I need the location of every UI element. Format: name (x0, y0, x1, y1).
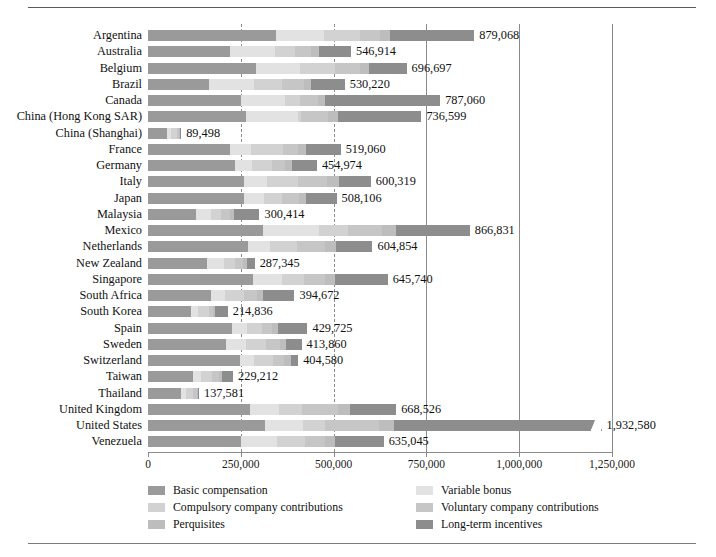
table-row (148, 46, 351, 57)
bar-value-label: 645,740 (393, 274, 433, 285)
bar-segment-varbonus (263, 225, 319, 236)
category-label: Spain (114, 322, 142, 335)
bar-segment-compul (247, 323, 262, 334)
bar-segment-perq (380, 30, 390, 41)
bar-segment-perq (318, 95, 325, 106)
bar-segment-volunt (282, 193, 299, 204)
bar-segment-volunt (235, 258, 244, 269)
bar-segment-perq (285, 160, 292, 171)
bar-segment-varbonus (235, 160, 252, 171)
bar-value-label: 394,672 (300, 290, 340, 301)
category-label: Brazil (112, 78, 142, 91)
bar-segment-lti (335, 436, 384, 447)
bar-segment-compul (277, 436, 305, 447)
table-row (148, 128, 181, 139)
legend-label: Variable bonus (441, 483, 511, 498)
table-row (148, 225, 470, 236)
table-row (148, 274, 388, 285)
bar-segment-volunt (348, 225, 381, 236)
bar-value-label: 635,045 (389, 436, 429, 447)
bar-value-label: 137,581 (204, 388, 244, 399)
legend-swatch-icon (148, 520, 165, 529)
plot-area: 0250,000500,000750,0001,000,0001,250,000… (148, 24, 612, 452)
bar-segment-varbonus (232, 323, 248, 334)
bar-segment-volunt (266, 339, 280, 350)
bar-segment-varbonus (246, 111, 298, 122)
bar-segment-basic (148, 274, 253, 285)
bar-value-label: 879,068 (479, 30, 519, 41)
category-label: Japan (114, 192, 142, 205)
bar-segment-varbonus (226, 339, 246, 350)
bar-segment-compul (254, 79, 282, 90)
bar-segment-volunt (302, 404, 338, 415)
bar-segment-basic (148, 111, 246, 122)
bar-segment-perq (382, 225, 396, 236)
bar-value-label: 736,599 (426, 111, 466, 122)
x-axis-baseline (148, 452, 612, 453)
bar-segment-compul (264, 193, 282, 204)
bar-segment-volunt (282, 79, 304, 90)
bar-segment-basic (148, 225, 263, 236)
bar-segment-lti (306, 144, 341, 155)
x-tick-0 (148, 452, 149, 457)
bar-segment-volunt (305, 436, 325, 447)
legend-item: Voluntary company contributions (416, 499, 599, 516)
table-row (148, 30, 474, 41)
table-row (148, 111, 421, 122)
bar-segment-basic (148, 95, 241, 106)
bar-segment-compul (254, 355, 273, 366)
bar-segment-basic (148, 339, 226, 350)
bar-segment-varbonus (230, 46, 275, 57)
bar-value-label: 508,106 (342, 193, 382, 204)
bar-segment-volunt (295, 46, 312, 57)
category-label: Taiwan (106, 370, 142, 383)
bar-value-label: 1,932,580 (607, 420, 656, 431)
bar-segment-lti (292, 160, 317, 171)
x-tick-750000 (426, 452, 427, 457)
bar-value-label: 668,526 (401, 404, 441, 415)
bar-segment-lti (338, 111, 422, 122)
bar-segment-basic (148, 30, 276, 41)
bar-segment-compul (252, 160, 272, 171)
table-row (148, 241, 372, 252)
category-label: China (Hong Kong SAR) (17, 110, 142, 123)
bar-segment-perq (360, 63, 370, 74)
bar-segment-basic (148, 306, 191, 317)
bar-segment-volunt (298, 176, 327, 187)
category-label: Switzerland (83, 354, 142, 367)
bar-segment-volunt (272, 160, 285, 171)
legend-swatch-icon (416, 503, 433, 512)
bar-segment-varbonus (191, 306, 198, 317)
x-tick-250000 (241, 452, 242, 457)
bar-segment-volunt (283, 144, 299, 155)
legend-label: Basic compensation (173, 483, 268, 498)
bar-segment-lti (311, 79, 344, 90)
legend-item: Long-term incentives (416, 516, 599, 533)
category-label: United States (76, 419, 142, 432)
bar-value-label: 454,974 (322, 160, 362, 171)
bar-segment-basic (148, 176, 244, 187)
table-row (148, 388, 199, 399)
legend-item: Compulsory company contributions (148, 499, 343, 516)
category-label: Venezuela (91, 435, 142, 448)
bar-segment-compul (224, 258, 234, 269)
bar-segment-lti (222, 371, 233, 382)
bar-value-label: 429,725 (313, 323, 353, 334)
bar-segment-lti (215, 306, 228, 317)
bar-segment-varbonus (193, 371, 202, 382)
legend-swatch-icon (416, 520, 433, 529)
bar-segment-perq (299, 193, 306, 204)
bar-segment-perq (284, 355, 291, 366)
bar-segment-varbonus (196, 209, 211, 220)
bar-segment-compul (275, 46, 295, 57)
bar-segment-compul (246, 339, 265, 350)
bar-segment-varbonus (276, 30, 324, 41)
bar-segment-perq (311, 46, 319, 57)
bar-segment-compul (225, 290, 244, 301)
bar-value-label: 89,498 (186, 128, 220, 139)
table-row (148, 63, 407, 74)
bar-segment-lti (234, 209, 259, 220)
bar-segment-compul (279, 404, 302, 415)
x-tick-label: 1,000,000 (496, 458, 542, 470)
bar-segment-perq (325, 274, 335, 285)
